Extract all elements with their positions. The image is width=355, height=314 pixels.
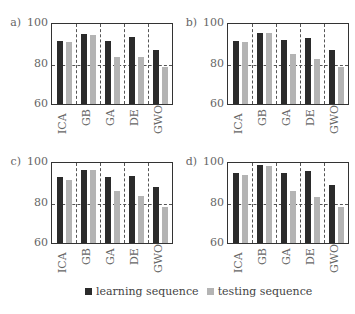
learning-bar-de: [305, 171, 311, 243]
x-tick-label: GWO: [153, 105, 164, 134]
x-tick-label: GWO: [329, 244, 340, 273]
x-tick-label: GB: [257, 109, 268, 126]
x-tick-label: ICA: [233, 252, 244, 273]
x-tick-label: ICA: [57, 252, 68, 273]
learning-bar-gwo: [329, 185, 335, 243]
category-separator: [124, 163, 125, 243]
learning-bar-ica: [57, 41, 63, 104]
learning-bar-de: [129, 176, 135, 243]
learning-bar-ga: [281, 173, 287, 243]
category-separator: [100, 163, 101, 243]
category-separator: [252, 163, 253, 243]
testing-bar-ica: [66, 42, 72, 104]
y-tick-label: 80: [184, 58, 224, 69]
learning-bar-gb: [81, 170, 87, 243]
x-tick-label: DE: [305, 109, 316, 126]
category-separator: [276, 163, 277, 243]
x-tick-label: GA: [105, 109, 116, 126]
subplot-label: c): [1, 156, 21, 167]
x-tick-label: GB: [81, 109, 92, 126]
testing-bar-gwo: [162, 67, 168, 104]
x-tick-label: ICA: [57, 113, 68, 134]
learning-swatch: [85, 288, 92, 295]
learning-bar-ica: [233, 41, 239, 104]
y-tick-label: 60: [8, 98, 48, 109]
x-tick-label: DE: [129, 248, 140, 265]
learning-bar-gb: [81, 34, 87, 104]
testing-bar-ga: [114, 57, 120, 104]
category-separator: [148, 24, 149, 104]
x-tick-label: GWO: [153, 244, 164, 273]
learning-bar-gwo: [153, 50, 159, 104]
learning-bar-gb: [257, 165, 263, 243]
plot-area: [51, 162, 173, 244]
learning-bar-ga: [105, 177, 111, 243]
subplot-label: b): [177, 17, 197, 28]
category-separator: [252, 24, 253, 104]
y-tick-label: 60: [184, 237, 224, 248]
category-separator: [276, 24, 277, 104]
y-tick-label: 60: [184, 98, 224, 109]
learning-bar-ga: [105, 41, 111, 104]
x-tick-label: ICA: [233, 113, 244, 134]
testing-bar-ga: [290, 54, 296, 104]
learning-bar-ica: [57, 177, 63, 243]
learning-bar-gb: [257, 33, 263, 104]
category-separator: [76, 163, 77, 243]
x-tick-label: GA: [281, 248, 292, 265]
subplot-label: d): [177, 156, 197, 167]
testing-bar-ica: [242, 42, 248, 104]
x-tick-label: GA: [281, 109, 292, 126]
testing-bar-gb: [266, 33, 272, 104]
learning-bar-gwo: [329, 50, 335, 104]
category-separator: [300, 24, 301, 104]
learning-bar-gwo: [153, 187, 159, 243]
testing-bar-gb: [90, 170, 96, 243]
testing-bar-de: [138, 57, 144, 104]
testing-bar-de: [314, 59, 320, 104]
testing-bar-ga: [290, 191, 296, 243]
testing-bar-gwo: [162, 207, 168, 243]
category-separator: [300, 163, 301, 243]
testing-swatch: [207, 288, 214, 295]
x-tick-label: GB: [81, 248, 92, 265]
y-tick-label: 80: [184, 197, 224, 208]
category-separator: [100, 24, 101, 104]
x-tick-label: DE: [305, 248, 316, 265]
learning-bar-ga: [281, 40, 287, 104]
plot-area: [227, 23, 349, 105]
y-tick-label: 80: [8, 58, 48, 69]
category-separator: [148, 163, 149, 243]
category-separator: [124, 24, 125, 104]
x-tick-label: DE: [129, 109, 140, 126]
testing-bar-gwo: [338, 67, 344, 104]
plot-area: [51, 23, 173, 105]
testing-bar-gwo: [338, 207, 344, 243]
plot-area: [227, 162, 349, 244]
legend-learning-label: learning sequence: [96, 285, 199, 298]
legend: learning sequence testing sequence: [85, 285, 312, 298]
category-separator: [76, 24, 77, 104]
testing-bar-ica: [242, 175, 248, 243]
learning-bar-de: [305, 38, 311, 104]
learning-bar-de: [129, 37, 135, 104]
testing-bar-gb: [266, 166, 272, 243]
testing-bar-ga: [114, 191, 120, 243]
x-tick-label: GWO: [329, 105, 340, 134]
category-separator: [324, 24, 325, 104]
testing-bar-ica: [66, 180, 72, 243]
learning-bar-ica: [233, 173, 239, 243]
y-tick-label: 60: [8, 237, 48, 248]
subplot-label: a): [1, 17, 21, 28]
category-separator: [324, 163, 325, 243]
x-tick-label: GB: [257, 248, 268, 265]
x-tick-label: GA: [105, 248, 116, 265]
y-tick-label: 80: [8, 197, 48, 208]
testing-bar-gb: [90, 35, 96, 104]
testing-bar-de: [314, 197, 320, 243]
testing-bar-de: [138, 196, 144, 243]
legend-testing-label: testing sequence: [218, 285, 313, 298]
